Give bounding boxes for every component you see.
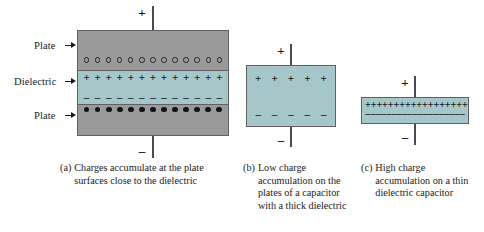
caption-c: (c) High charge accumulation on a thin d… <box>361 162 471 200</box>
caption-b: (b) Low charge accumulation on the plate… <box>243 162 347 212</box>
charge-minus-symbol: – <box>183 92 189 103</box>
charge-open-circle <box>183 57 188 62</box>
charge-minus-symbol: – <box>397 109 402 119</box>
charge-minus-symbol: – <box>433 109 438 119</box>
panel-b-plus-row: +++++ <box>247 72 335 84</box>
charge-plus-symbol: + <box>106 72 112 83</box>
caption-a-text: Charges accumulate at the plate surfaces… <box>74 162 232 187</box>
charge-plus-symbol: + <box>468 100 469 110</box>
charge-open-circle <box>95 57 100 62</box>
charge-minus-symbol: – <box>376 109 381 119</box>
caption-b-label: (b) <box>243 162 255 212</box>
charge-minus-symbol: – <box>117 92 123 103</box>
charge-open-circle <box>106 57 111 62</box>
charge-plus-symbol: + <box>304 73 310 84</box>
charge-minus-symbol: – <box>205 92 211 103</box>
charge-filled-circle <box>106 107 112 113</box>
panel-a-plus-row: +++++++++++++ <box>78 71 228 83</box>
charge-filled-circle <box>150 107 156 113</box>
charge-plus-symbol: + <box>183 72 189 83</box>
charge-plus-symbol: + <box>194 72 200 83</box>
charge-filled-circle <box>216 107 222 113</box>
panel-a-minus-row: ––––––––––––– <box>78 91 228 103</box>
charge-minus-symbol: – <box>194 92 200 103</box>
charge-plus-symbol: + <box>117 72 123 83</box>
charge-minus-symbol: – <box>412 109 417 119</box>
charge-filled-circle <box>161 107 167 113</box>
panel-a-bottom-terminal-sign: – <box>136 144 148 157</box>
charge-minus-symbol: – <box>454 109 459 119</box>
charge-minus-symbol: – <box>128 92 134 103</box>
charge-filled-circle <box>172 107 178 113</box>
charge-plus-symbol: + <box>288 73 294 84</box>
charge-plus-symbol: + <box>83 72 89 83</box>
charge-minus-symbol: – <box>106 92 112 103</box>
charge-minus-symbol: – <box>161 92 167 103</box>
charge-open-circle <box>194 57 199 62</box>
caption-a-label: (a) <box>60 162 71 187</box>
panel-a-capacitor-body: +++++++++++++ ––––––––––––– <box>77 30 229 136</box>
panel-a-bottom-lead <box>152 136 154 158</box>
panel-b-minus-row: ––––– <box>247 108 335 120</box>
charge-filled-circle <box>128 107 134 113</box>
caption-b-text: Low charge accumulation on the plates of… <box>258 162 347 212</box>
charge-minus-symbol: – <box>95 92 101 103</box>
panel-c-capacitor-body: +++++++++++++++++++ ––––––––––––––––––– <box>361 97 469 124</box>
caption-c-text: High charge accumulation on a thin diele… <box>375 162 471 200</box>
charge-plus-symbol: + <box>321 73 327 84</box>
charge-minus-symbol: – <box>439 109 444 119</box>
charge-open-circle <box>139 57 144 62</box>
charge-plus-symbol: + <box>255 73 261 84</box>
charge-filled-circle <box>84 107 90 113</box>
charge-filled-circle <box>205 107 211 113</box>
panel-a-open-circle-row <box>78 55 228 65</box>
charge-minus-symbol: – <box>460 109 465 119</box>
charge-plus-symbol: + <box>271 73 277 84</box>
panel-a-filled-circle-row <box>78 104 228 115</box>
charge-open-circle <box>206 57 211 62</box>
charge-open-circle <box>150 57 155 62</box>
charge-minus-symbol: – <box>288 109 294 120</box>
panel-c-top-lead <box>414 76 416 97</box>
charge-minus-symbol: – <box>370 109 375 119</box>
label-dielectric-arrow-head <box>71 78 76 84</box>
charge-filled-circle <box>183 107 189 113</box>
panel-b-bottom-lead <box>290 127 292 147</box>
charge-minus-symbol: – <box>321 109 327 120</box>
charge-minus-symbol: – <box>418 109 423 119</box>
charge-open-circle <box>161 57 166 62</box>
charge-open-circle <box>117 57 122 62</box>
charge-plus-symbol: + <box>161 72 167 83</box>
charge-minus-symbol: – <box>305 109 311 120</box>
label-plate-bottom-arrow-head <box>71 112 76 118</box>
panel-b-bottom-terminal-sign: – <box>275 133 287 146</box>
panel-b-top-terminal-sign: + <box>275 44 287 57</box>
panel-b-capacitor-body: +++++ ––––– <box>246 65 336 127</box>
label-dielectric: Dielectric <box>14 76 56 87</box>
charge-open-circle <box>128 57 133 62</box>
charge-plus-symbol: + <box>139 72 145 83</box>
panel-c-bottom-terminal-sign: – <box>399 130 411 143</box>
charge-plus-symbol: + <box>172 72 178 83</box>
panel-c-bottom-lead <box>414 124 416 145</box>
charge-filled-circle <box>139 107 145 113</box>
charge-filled-circle <box>194 107 200 113</box>
charge-open-circle <box>84 57 89 62</box>
charge-plus-symbol: + <box>94 72 100 83</box>
charge-minus-symbol: – <box>255 109 261 120</box>
charge-minus-symbol: – <box>172 92 178 103</box>
charge-plus-symbol: + <box>128 72 134 83</box>
label-plate-top-arrow-head <box>71 42 76 48</box>
capacitor-dielectric-figure: + – +++++++++++++ ––––––––––––– Plate Di… <box>0 0 484 232</box>
charge-minus-symbol: – <box>139 92 145 103</box>
panel-a-top-terminal-sign: + <box>136 6 148 19</box>
panel-c-top-terminal-sign: + <box>399 76 411 89</box>
charge-minus-symbol: – <box>391 109 396 119</box>
charge-minus-symbol: – <box>84 92 90 103</box>
charge-filled-circle <box>117 107 123 113</box>
label-plate-bottom: Plate <box>34 110 56 121</box>
caption-c-label: (c) <box>361 162 372 200</box>
charge-plus-symbol: + <box>150 72 156 83</box>
charge-filled-circle <box>95 107 101 113</box>
panel-b-top-lead <box>290 44 292 65</box>
